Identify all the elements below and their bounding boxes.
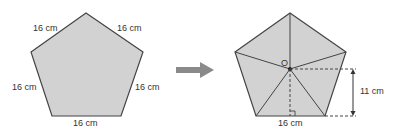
right-arrow-icon — [176, 62, 214, 78]
height-dimension — [351, 69, 356, 116]
side-label-bottom: 16 cm — [73, 118, 98, 128]
pentagon-diagram: 16 cm 16 cm 16 cm 16 cm 16 cm O — [0, 0, 397, 133]
center-label: O — [281, 58, 288, 68]
side-label-left: 16 cm — [12, 82, 37, 92]
right-pentagon: O 11 cm 16 cm — [235, 13, 384, 128]
left-pentagon: 16 cm 16 cm 16 cm 16 cm 16 cm — [12, 13, 160, 128]
height-label: 11 cm — [360, 86, 384, 96]
side-label-top-left: 16 cm — [33, 23, 58, 33]
base-label: 16 cm — [278, 118, 303, 128]
side-label-right: 16 cm — [135, 82, 160, 92]
side-label-top-right: 16 cm — [117, 23, 142, 33]
